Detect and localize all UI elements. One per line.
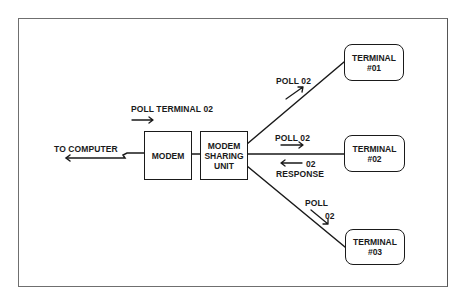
to-computer-label: TO COMPUTER <box>54 144 118 154</box>
terminal-02-label-line1: TERMINAL <box>353 144 397 154</box>
poll-02-t2-label: POLL 02 <box>275 133 310 143</box>
modem-sharing-unit-box: MODEM SHARING UNIT <box>200 131 248 180</box>
poll-t3-label: POLL <box>305 198 328 208</box>
msu-label-line2: SHARING <box>204 151 243 161</box>
msu-label-line1: MODEM <box>208 141 241 151</box>
arrow-left-icon <box>281 160 302 166</box>
msu-label-line3: UNIT <box>214 161 234 171</box>
terminal-01-label-line1: TERMINAL <box>352 53 396 63</box>
terminal-03-label-line2: #03 <box>368 247 382 257</box>
terminal-01-box: TERMINAL #01 <box>344 44 404 81</box>
poll-t3-num-label: 02 <box>325 211 335 221</box>
arrow-right-icon <box>132 117 153 123</box>
modem-box: MODEM <box>144 131 192 180</box>
modem-box-label: MODEM <box>152 151 185 161</box>
terminal-02-box: TERMINAL #02 <box>344 135 405 172</box>
response-label: RESPONSE <box>276 169 324 179</box>
terminal-02-label-line2: #02 <box>367 154 381 164</box>
terminal-01-label-line2: #01 <box>367 63 381 73</box>
msu-t1-line <box>247 62 344 144</box>
terminal-03-label-line1: TERMINAL <box>353 237 397 247</box>
response-02-label: 02 <box>306 159 316 169</box>
arrow-up-right-icon <box>286 87 303 99</box>
poll-02-t1-label: POLL 02 <box>276 76 311 86</box>
terminal-03-box: TERMINAL #03 <box>345 229 405 265</box>
poll-terminal-02-label: POLL TERMINAL 02 <box>131 104 213 114</box>
